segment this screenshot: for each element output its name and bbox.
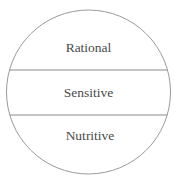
section-label-rational: Rational <box>66 40 112 55</box>
section-label-nutritive: Nutritive <box>66 128 115 143</box>
section-label-sensitive: Sensitive <box>64 85 114 100</box>
soul-diagram: Rational Sensitive Nutritive <box>0 0 176 185</box>
